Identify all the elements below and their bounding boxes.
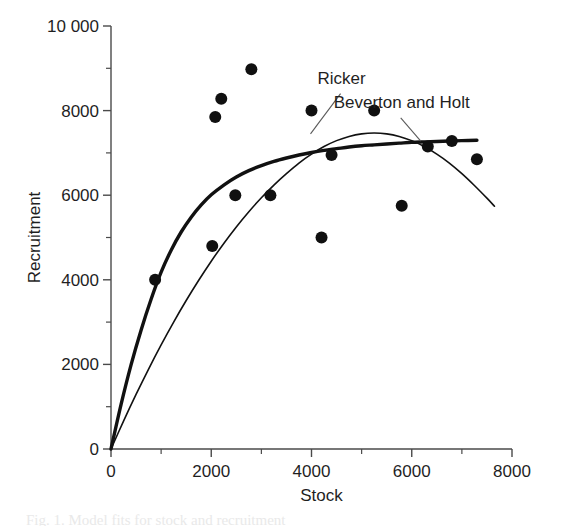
- x-tick-label: 0: [106, 462, 115, 481]
- series-label-beverton-and-holt: Beverton and Holt: [334, 93, 470, 112]
- data-point: [446, 135, 458, 147]
- y-axis-title: Recruitment: [25, 191, 44, 283]
- data-point: [149, 274, 161, 286]
- chart-background: [0, 0, 563, 526]
- data-point: [206, 240, 218, 252]
- y-tick-label: 4000: [61, 271, 99, 290]
- data-point: [471, 153, 483, 165]
- x-tick-label: 2000: [192, 462, 230, 481]
- data-point: [326, 149, 338, 161]
- y-tick-label: 8000: [61, 102, 99, 121]
- data-point: [316, 232, 328, 244]
- series-label-ricker: Ricker: [317, 69, 366, 88]
- figure-caption-partial: Fig. 1. Model fits for stock and recruit…: [26, 512, 446, 526]
- data-point: [215, 93, 227, 105]
- x-tick-label: 6000: [393, 462, 431, 481]
- x-tick-label: 8000: [493, 462, 531, 481]
- data-point: [422, 141, 434, 153]
- data-point: [264, 189, 276, 201]
- y-tick-label: 10 000: [47, 17, 99, 36]
- y-tick-label: 6000: [61, 186, 99, 205]
- data-point: [306, 105, 318, 117]
- y-tick-label: 2000: [61, 355, 99, 374]
- data-point: [229, 189, 241, 201]
- data-point: [209, 111, 221, 123]
- data-point: [396, 200, 408, 212]
- stock-recruitment-chart: 0200040006000800010 00002000400060008000…: [0, 0, 563, 526]
- y-tick-label: 0: [90, 440, 99, 459]
- x-tick-label: 4000: [293, 462, 331, 481]
- x-axis-title: Stock: [300, 486, 343, 505]
- data-point: [245, 63, 257, 75]
